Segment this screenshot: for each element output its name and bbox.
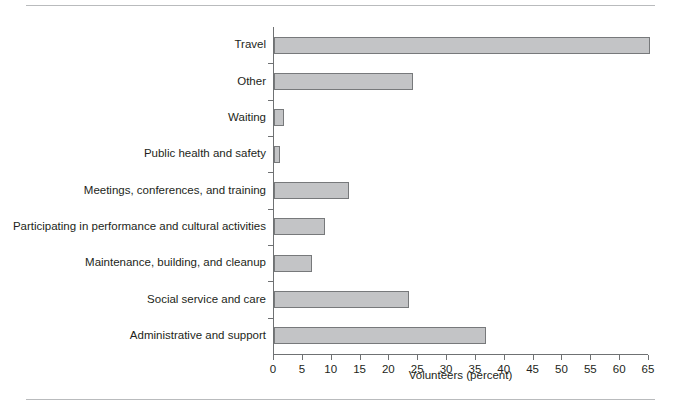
- value-tick: [273, 355, 274, 360]
- category-label: Other: [0, 75, 266, 88]
- category-tick: [268, 318, 273, 319]
- category-tick: [268, 245, 273, 246]
- category-tick: [268, 172, 273, 173]
- bar: [274, 255, 312, 272]
- plot-area: 05101520253035404550556065: [273, 27, 648, 354]
- value-tick: [417, 355, 418, 360]
- value-tick: [590, 355, 591, 360]
- category-label: Waiting: [0, 111, 266, 124]
- top-divider-rule: [26, 5, 655, 6]
- bar: [274, 182, 349, 199]
- value-tick: [446, 355, 447, 360]
- category-tick: [268, 63, 273, 64]
- bar: [274, 146, 280, 163]
- category-tick: [268, 100, 273, 101]
- bar: [274, 109, 284, 126]
- category-tick: [268, 209, 273, 210]
- bar: [274, 291, 409, 308]
- category-label: Social service and care: [0, 293, 266, 306]
- value-tick: [648, 355, 649, 360]
- value-tick: [619, 355, 620, 360]
- x-axis-title: Volunteers (percent): [273, 369, 648, 381]
- category-label: Administrative and support: [0, 329, 266, 342]
- category-label: Maintenance, building, and cleanup: [0, 256, 266, 269]
- bar: [274, 37, 650, 54]
- bar: [274, 218, 325, 235]
- category-label: Public health and safety: [0, 147, 266, 160]
- category-label: Travel: [0, 38, 266, 51]
- bar: [274, 73, 413, 90]
- value-tick: [561, 355, 562, 360]
- value-tick: [302, 355, 303, 360]
- bottom-divider-rule: [26, 399, 655, 400]
- value-tick: [475, 355, 476, 360]
- value-tick: [360, 355, 361, 360]
- value-tick: [504, 355, 505, 360]
- category-tick: [268, 136, 273, 137]
- value-axis-line: [273, 354, 648, 355]
- chart-figure: TravelOtherWaitingPublic health and safe…: [0, 0, 675, 412]
- category-label: Participating in performance and cultura…: [0, 220, 266, 233]
- category-label: Meetings, conferences, and training: [0, 184, 266, 197]
- value-tick: [533, 355, 534, 360]
- category-tick: [268, 281, 273, 282]
- value-tick: [331, 355, 332, 360]
- bar: [274, 327, 486, 344]
- value-tick: [388, 355, 389, 360]
